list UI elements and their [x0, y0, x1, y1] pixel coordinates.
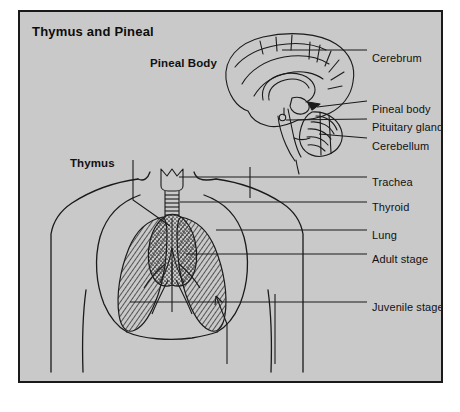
label-juvenile-stage: Juvenile stage	[372, 302, 443, 313]
leader-pineal-body	[317, 101, 367, 107]
brain-sagittal-section	[226, 34, 354, 174]
label-adult-stage: Adult stage	[372, 254, 428, 265]
label-thymus-inner: Thymus	[70, 158, 115, 169]
larynx-and-trachea	[161, 169, 183, 217]
label-lung: Lung	[372, 230, 397, 241]
figure-panel: Thymus and Pineal	[18, 10, 443, 383]
label-cerebrum: Cerebrum	[372, 53, 422, 64]
label-trachea: Trachea	[372, 177, 413, 188]
anatomy-illustration	[20, 12, 441, 381]
label-cerebellum: Cerebellum	[372, 141, 429, 152]
label-pineal-body-inner: Pineal Body	[150, 58, 217, 69]
label-thyroid: Thyroid	[372, 202, 409, 213]
label-pineal-body: Pineal body	[372, 104, 431, 115]
leader-pituitary-gland	[286, 119, 367, 120]
leader-cerebellum	[319, 134, 367, 138]
label-pituitary-gland: Pituitary gland	[372, 122, 443, 133]
